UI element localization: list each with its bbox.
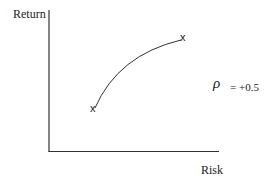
frontier-curve bbox=[95, 40, 181, 108]
high-point-marker: x bbox=[180, 32, 186, 43]
correlation-value: = +0.5 bbox=[230, 82, 259, 93]
low-point-marker: x bbox=[90, 103, 96, 114]
rho-symbol: ρ bbox=[213, 76, 220, 91]
x-axis-label: Risk bbox=[201, 164, 223, 176]
y-axis-label: Return bbox=[13, 8, 46, 20]
